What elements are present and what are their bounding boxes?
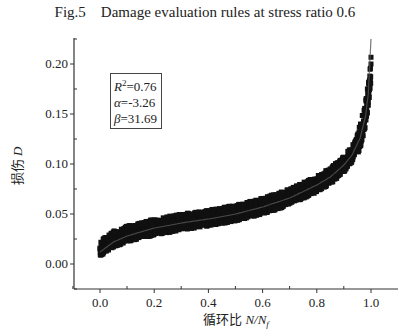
- x-axis-label: 循环比 N/Nf: [203, 312, 270, 329]
- x-tick-label: 1.0: [363, 295, 379, 310]
- axes: 0.000.050.100.150.200.00.20.40.60.81.0循环…: [10, 38, 398, 329]
- x-tick-label: 0.2: [146, 295, 162, 310]
- y-tick-label: 0.05: [45, 206, 68, 221]
- x-tick-label: 0.8: [309, 295, 325, 310]
- x-tick-label: 0.6: [254, 295, 271, 310]
- y-axis-label: 损伤 D: [10, 146, 25, 185]
- alpha-value: α=-3.26: [114, 95, 157, 111]
- y-tick-label: 0.00: [45, 256, 68, 271]
- y-tick-label: 0.10: [45, 156, 68, 171]
- damage-chart: 0.000.050.100.150.200.00.20.40.60.81.0循环…: [0, 0, 410, 333]
- y-tick-label: 0.20: [45, 56, 68, 71]
- beta-value: β=31.69: [114, 111, 157, 127]
- r-squared: R2=0.76: [114, 75, 157, 95]
- stats-box: R2=0.76 α=-3.26 β=31.69: [110, 73, 162, 129]
- x-tick-label: 0.0: [92, 295, 108, 310]
- x-tick-label: 0.4: [200, 295, 217, 310]
- y-tick-label: 0.15: [45, 106, 68, 121]
